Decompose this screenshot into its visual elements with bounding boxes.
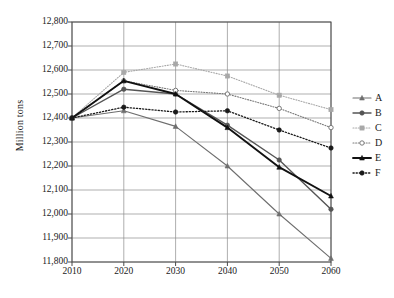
legend-marker-E-icon — [352, 152, 372, 164]
y-axis-title: Million tons — [14, 71, 25, 181]
y-tick-label: 12,000 — [24, 209, 68, 219]
line-chart: 12,80012,70012,60012,50012,40012,30012,2… — [0, 0, 394, 298]
x-axis-ticklabels: 201020202030204020502060 — [0, 266, 394, 286]
legend-item-F[interactable]: F — [352, 165, 394, 180]
x-tick-label: 2060 — [308, 266, 354, 276]
y-tick-label: 12,300 — [24, 137, 68, 147]
y-tick-label: 12,100 — [24, 185, 68, 195]
legend-label: A — [375, 93, 382, 103]
series-F — [70, 105, 333, 150]
legend-item-B[interactable]: B — [352, 105, 394, 120]
x-tick-label: 2020 — [101, 266, 147, 276]
y-tick-label: 12,200 — [24, 161, 68, 171]
x-tick-label: 2030 — [153, 266, 199, 276]
legend-label: D — [375, 138, 382, 148]
x-tick-label: 2050 — [256, 266, 302, 276]
legend-item-D[interactable]: D — [352, 135, 394, 150]
legend-item-A[interactable]: A — [352, 90, 394, 105]
chart-legend: ABCDEF — [352, 90, 394, 180]
legend-marker-D-icon — [352, 137, 372, 149]
legend-item-C[interactable]: C — [352, 120, 394, 135]
legend-label: C — [375, 123, 382, 133]
x-tick-label: 2040 — [204, 266, 250, 276]
legend-marker-F-icon — [352, 167, 372, 179]
series-A — [70, 108, 334, 260]
legend-marker-C-icon — [352, 122, 372, 134]
y-tick-label: 12,800 — [24, 17, 68, 27]
series-E — [70, 78, 334, 198]
legend-label: B — [375, 108, 382, 118]
series-B — [70, 87, 333, 211]
gridlines — [72, 22, 331, 262]
y-tick-label: 12,500 — [24, 89, 68, 99]
legend-label: F — [375, 168, 381, 178]
y-tick-label: 12,600 — [24, 65, 68, 75]
y-tick-label: 12,400 — [24, 113, 68, 123]
x-tick-label: 2010 — [49, 266, 95, 276]
y-tick-label: 11,900 — [24, 233, 68, 243]
legend-item-E[interactable]: E — [352, 150, 394, 165]
legend-label: E — [375, 153, 381, 163]
y-tick-label: 12,700 — [24, 41, 68, 51]
y-axis-ticklabels: 12,80012,70012,60012,50012,40012,30012,2… — [18, 0, 68, 298]
legend-marker-A-icon — [352, 92, 372, 104]
legend-marker-B-icon — [352, 107, 372, 119]
series-D — [70, 79, 333, 130]
series-lines — [70, 62, 334, 261]
